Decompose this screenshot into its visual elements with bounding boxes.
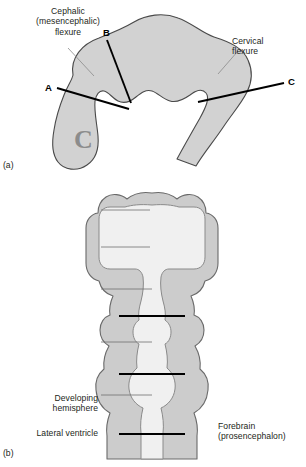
- label-lateral-ventricle: Lateral ventricle: [5, 428, 98, 438]
- inset-letter-c: C: [74, 125, 93, 154]
- panel-tag-a: (a): [3, 160, 14, 170]
- label-forebrain-prosencephalon: Forebrain (prosencephalon): [218, 421, 306, 442]
- panel-b-ventricular-system: Developing hemisphere Lateral ventricle …: [0, 185, 306, 467]
- label-cervical-flexure: Cervical flexure: [232, 36, 302, 57]
- figure-embryonic-brain: C Cephalic (mesencephalic) flexure Cervi…: [0, 0, 306, 467]
- section-marker-b-panel-a: B: [103, 28, 110, 38]
- panel-a-brain-flexures: C Cephalic (mesencephalic) flexure Cervi…: [0, 0, 306, 185]
- section-marker-a-panel-a: A: [45, 83, 52, 93]
- section-marker-c-panel-a: C: [288, 77, 295, 87]
- panel-tag-b: (b): [3, 448, 14, 458]
- label-developing-hemisphere: Developing hemisphere: [22, 393, 98, 414]
